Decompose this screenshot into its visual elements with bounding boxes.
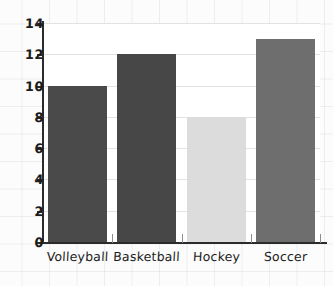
x-tick-label: Basketball (112, 249, 182, 264)
y-tick-label: 0 (14, 235, 45, 250)
x-tick-mark (251, 234, 252, 243)
y-tick-label: 12 (14, 47, 45, 62)
y-tick-label: 14 (14, 16, 45, 31)
x-tick-label: Hockey (181, 249, 251, 264)
x-tick-mark (320, 234, 321, 243)
y-tick-label: 4 (14, 172, 45, 187)
x-tick-mark (112, 234, 113, 243)
bars-container (43, 23, 320, 242)
bar-soccer (256, 39, 315, 242)
y-tick-label: 8 (14, 109, 45, 124)
y-tick-label: 10 (14, 78, 45, 93)
y-tick-label: 2 (14, 203, 45, 218)
x-tick-mark (182, 234, 183, 243)
x-tick-label: Soccer (250, 249, 320, 264)
bar-chart-figure: 14121086420 VolleyballBasketballHockeySo… (0, 0, 333, 286)
bar-hockey (187, 117, 246, 242)
x-tick-label: Volleyball (43, 249, 113, 264)
bar-basketball (117, 54, 176, 242)
plot-area (43, 23, 320, 242)
y-tick-label: 6 (14, 141, 45, 156)
x-axis-line (42, 242, 327, 244)
bar-volleyball (48, 86, 107, 242)
